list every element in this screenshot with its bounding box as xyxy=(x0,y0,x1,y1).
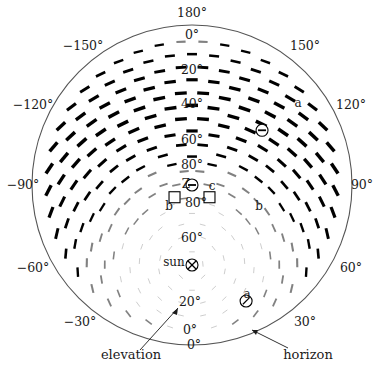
polarization-bar xyxy=(91,284,93,293)
polarization-bar xyxy=(60,153,68,162)
polarization-bar xyxy=(239,78,250,81)
polarization-bar xyxy=(209,56,219,57)
polarization-bar xyxy=(148,172,156,176)
polarization-bar xyxy=(219,97,231,99)
polarization-bar xyxy=(306,202,311,211)
polarization-bar xyxy=(169,246,172,250)
polarization-bar xyxy=(316,153,324,162)
polarization-bar xyxy=(222,297,226,301)
polarization-bar xyxy=(153,97,165,99)
polarization-bar xyxy=(179,275,183,279)
marker-b-right-suffix: b xyxy=(255,200,263,212)
polarization-bar xyxy=(260,243,262,249)
polarization-bar xyxy=(149,235,152,240)
polarization-bar xyxy=(216,155,226,158)
polarization-bar xyxy=(208,81,219,82)
polarization-bar xyxy=(72,159,80,168)
polarization-bar xyxy=(319,197,324,207)
azimuth-label-neg120: −120° xyxy=(13,99,54,112)
polarization-bar xyxy=(128,128,139,133)
polarization-bar xyxy=(224,269,225,275)
polarization-bar xyxy=(80,87,89,93)
polarization-bar xyxy=(49,207,53,218)
polarization-bar xyxy=(124,198,130,204)
polarization-bar xyxy=(114,60,123,63)
polarization-bar xyxy=(134,78,145,81)
polarization-bar xyxy=(212,286,216,290)
azimuth-label-neg90: −90° xyxy=(7,179,40,192)
polarization-bar xyxy=(165,107,177,109)
polarization-bar xyxy=(331,207,335,218)
markers-layer xyxy=(169,124,268,307)
polarization-bar xyxy=(201,275,205,279)
polarization-bar xyxy=(292,243,294,252)
polarization-bar xyxy=(117,290,120,297)
polarization-bar xyxy=(88,149,97,157)
polarization-bar xyxy=(46,185,51,195)
polarization-bar xyxy=(108,224,111,232)
polarization-bar xyxy=(245,128,256,133)
polarization-bar xyxy=(239,107,250,111)
polarization-bar xyxy=(160,184,168,187)
polarization-bar xyxy=(159,269,160,275)
polarization-bar xyxy=(269,81,279,86)
polarization-bar xyxy=(136,166,145,171)
polarization-bar xyxy=(91,243,93,252)
polarization-bar xyxy=(308,104,317,111)
polarization-bar xyxy=(89,96,99,102)
azimuth-label-180: 180° xyxy=(177,7,207,20)
elevation-label-upper-60: 60° xyxy=(181,134,203,147)
polarization-bar xyxy=(265,208,270,215)
polarization-bar xyxy=(165,135,176,137)
marker-b-left-suffix: b xyxy=(165,200,173,212)
elevation-label-lower-0: 0° xyxy=(183,324,197,337)
polarization-bar xyxy=(134,51,143,53)
polarization-bar xyxy=(282,233,284,241)
polarization-bar xyxy=(58,175,64,185)
polarization-bar xyxy=(291,284,293,293)
marker-neutral-point-a-upper xyxy=(256,124,268,136)
polarization-bar xyxy=(76,113,85,120)
polarization-bar xyxy=(125,98,136,102)
polarization-bar xyxy=(109,187,116,194)
polarization-bar xyxy=(278,159,286,166)
polarization-bar xyxy=(178,315,184,316)
polarization-bar xyxy=(242,188,249,193)
polarization-bar xyxy=(229,87,240,90)
polarization-bar xyxy=(326,228,328,239)
polarization-bar xyxy=(282,275,283,283)
polarization-bar xyxy=(231,235,234,240)
polarization-bar xyxy=(255,177,263,183)
polarization-bar xyxy=(299,113,308,120)
polarization-bar xyxy=(110,166,118,173)
polarization-bar xyxy=(126,311,131,317)
polarization-bar xyxy=(100,233,102,241)
polarization-bar xyxy=(295,87,304,93)
elevation-label-upper-80: 80° xyxy=(181,159,203,172)
polarization-bar xyxy=(315,218,318,228)
azimuth-label-30: 30° xyxy=(294,316,316,329)
polarization-bar xyxy=(232,320,238,325)
polarization-bar xyxy=(46,164,53,174)
polarization-bar xyxy=(143,61,153,63)
polarization-bar xyxy=(216,184,224,187)
zenith-suffix-c: c xyxy=(209,180,216,192)
polarization-bar xyxy=(279,72,288,76)
polarization-bar xyxy=(142,209,148,214)
polarization-bar xyxy=(197,119,209,120)
azimuth-label-150: 150° xyxy=(290,40,320,53)
polarization-bar xyxy=(57,122,65,130)
polarization-bar xyxy=(114,208,119,215)
polarization-bar xyxy=(164,81,175,82)
polarization-bar xyxy=(60,197,65,207)
polarization-bar xyxy=(138,138,148,142)
polarization-bar xyxy=(274,103,284,109)
polarization-bar xyxy=(120,276,121,282)
elevation-label-upper-40: 40° xyxy=(181,98,203,111)
polarization-bar xyxy=(98,159,106,166)
polarization-bar xyxy=(126,156,135,161)
polarization-bar xyxy=(301,223,304,232)
polarization-bar xyxy=(158,297,162,301)
polarization-bar xyxy=(248,98,259,102)
polarization-bar xyxy=(66,132,75,140)
